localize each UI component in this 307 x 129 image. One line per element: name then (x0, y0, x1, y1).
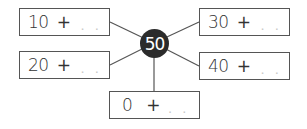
target-sum-circle: 50 (140, 29, 169, 58)
answer-blank[interactable]: . . (168, 101, 189, 116)
answer-blank[interactable]: . . (260, 62, 281, 77)
answer-blank[interactable]: . . (80, 61, 101, 76)
plus-sign: + (146, 95, 160, 115)
plus-sign: + (57, 55, 71, 75)
plus-sign: + (237, 12, 251, 32)
addend: 20 (28, 55, 49, 75)
answer-blank[interactable]: . . (80, 18, 101, 33)
addend: 30 (208, 12, 229, 32)
addend: 40 (208, 56, 229, 76)
addition-box-20: 20 + . . (19, 51, 110, 79)
answer-blank[interactable]: . . (260, 18, 281, 33)
plus-sign: + (57, 12, 71, 32)
addition-box-30: 30 + . . (199, 8, 290, 36)
addition-box-40: 40 + . . (199, 52, 290, 80)
addition-box-0: 0 + . . (109, 91, 200, 119)
plus-sign: + (237, 56, 251, 76)
addend: 10 (28, 12, 49, 32)
addition-box-10: 10 + . . (19, 8, 110, 36)
addend: 0 (122, 95, 132, 115)
